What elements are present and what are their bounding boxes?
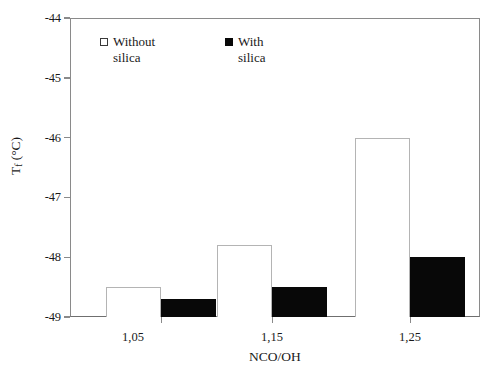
bar-with-silica-1 [161, 299, 216, 317]
legend-entry-without-silica: Without silica [100, 34, 155, 66]
y-axis-title-base: T [8, 167, 23, 175]
x-tick-label-2: 1,25 [370, 330, 450, 345]
chart-legend: Without silica With silica [70, 34, 370, 78]
bar-without-silica-2 [217, 245, 272, 317]
legend-label: Without silica [113, 34, 155, 66]
y-tick-label: -46 [45, 129, 61, 147]
open-square-icon [100, 38, 108, 46]
y-tick-label: -47 [45, 188, 61, 206]
y-axis-title-subscript: f [14, 164, 24, 167]
x-tick-label-1: 1,15 [232, 330, 312, 345]
x-tick-label-0: 1,05 [93, 330, 173, 345]
bar-without-silica-3 [355, 138, 410, 317]
legend-entry-with-silica: With silica [225, 34, 265, 66]
y-axis-title-units: (°C) [8, 137, 23, 164]
legend-label: With silica [238, 34, 265, 66]
y-tick-label: -45 [45, 69, 61, 87]
y-tick-label: -44 [45, 9, 61, 27]
x-tick-mark-2 [410, 317, 411, 323]
y-tick-label: -48 [45, 248, 61, 266]
bar-chart-figure: -44 -45 -46 -47 -48 -49 Tf (°C) [0, 0, 495, 373]
filled-square-icon [225, 38, 233, 46]
y-tick-label: -49 [45, 308, 61, 326]
x-tick-mark-1 [272, 317, 273, 323]
bar-without-silica-1 [106, 287, 161, 317]
bar-with-silica-2 [272, 287, 327, 317]
x-axis-title: NCO/OH [70, 349, 480, 365]
bar-with-silica-3 [410, 257, 465, 317]
y-axis-title: Tf (°C) [8, 96, 24, 216]
x-tick-mark-0 [161, 317, 162, 323]
